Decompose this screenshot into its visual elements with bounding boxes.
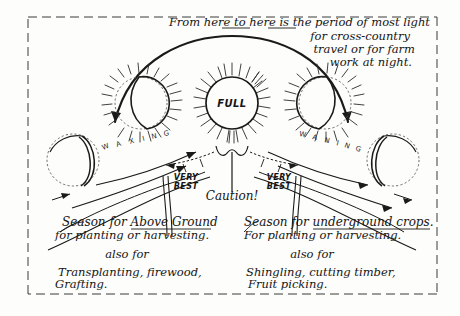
right-detail-line2: Fruit picking. (247, 277, 327, 291)
left-also-for: also for (105, 247, 150, 261)
new-moon-right (367, 134, 419, 186)
moon-phase-diagram-page: FULL (0, 0, 460, 316)
left-heading: Season for Above Ground (62, 215, 218, 229)
waxing-letter-i: I (142, 135, 146, 143)
very-best-left-line1: VERY (174, 173, 199, 182)
waxing-letter-x: X (128, 137, 135, 146)
caution-label: Caution! (206, 189, 259, 203)
waxing-label: W A X I N G (101, 129, 170, 152)
first-quarter-moon (102, 63, 182, 142)
header-line2: for cross-country (309, 29, 410, 43)
waning-label: W A N I N G (299, 130, 363, 154)
last-quarter-moon (284, 63, 364, 142)
very-best-left-label: VERY BEST (174, 173, 199, 191)
waning-letter-a: A (312, 133, 319, 142)
header-line3: travel or for farm (313, 42, 415, 56)
full-moon: FULL (194, 63, 270, 143)
waxing-letter-g: G (163, 129, 170, 138)
left-column: Season for Above Ground for planting or … (54, 215, 218, 291)
very-best-right-line2: BEST (267, 182, 292, 191)
waxing-letter-n: N (151, 132, 158, 141)
waxing-letter-w: W (101, 142, 110, 152)
left-detail-line2: Grafting. (55, 277, 108, 291)
waning-letter-g: G (354, 144, 362, 153)
very-best-right-line1: VERY (267, 173, 292, 182)
very-best-left-line2: BEST (174, 182, 199, 191)
header-line4: work at night. (330, 55, 412, 69)
new-moon-left (47, 134, 99, 186)
right-heading: Season for underground crops. (244, 215, 434, 229)
waning-letter-w: W (299, 130, 307, 139)
right-also-for: also for (290, 247, 335, 261)
right-column: Season for underground crops. For planti… (243, 215, 434, 291)
header-text: From here to here is the period of most … (168, 15, 430, 69)
waning-letter-n2: N (343, 141, 351, 150)
right-subheading: For planting or harvesting. (243, 228, 401, 242)
very-best-right-label: VERY BEST (267, 173, 292, 191)
waxing-letter-a: A (115, 140, 122, 149)
left-subheading: for planting or harvesting. (54, 228, 209, 242)
moon-phase-diagram: FULL (0, 0, 460, 316)
header-line1: From here to here is the period of most … (168, 15, 430, 29)
full-moon-label: FULL (217, 98, 246, 109)
waning-letter-n: N (324, 136, 331, 145)
waning-letter-i: I (335, 139, 339, 147)
